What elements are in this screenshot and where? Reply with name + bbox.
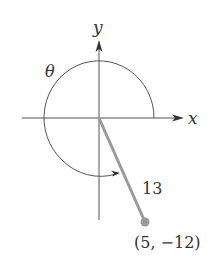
- arc-arrowhead-icon: [111, 171, 120, 177]
- terminal-side: [99, 118, 145, 222]
- terminal-point: [141, 218, 150, 227]
- x-axis-label: x: [188, 108, 198, 128]
- angle-diagram: y x θ 13 (5, −12): [0, 0, 217, 271]
- y-axis: [96, 40, 103, 220]
- angle-label: θ: [45, 62, 55, 81]
- x-axis: [22, 115, 184, 122]
- segment-length-label: 13: [142, 179, 162, 198]
- point-label: (5, −12): [134, 233, 201, 252]
- y-axis-label: y: [92, 17, 103, 37]
